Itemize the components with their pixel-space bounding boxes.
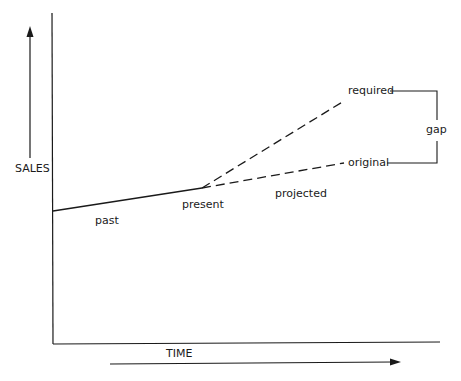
x-axis-label: TIME	[166, 348, 192, 360]
y-axis-line	[52, 13, 53, 344]
past-sales-line	[53, 188, 202, 211]
projected-label: projected	[275, 188, 327, 200]
diagram-canvas	[0, 0, 461, 381]
x-axis-line	[53, 342, 440, 344]
original-projection-line	[202, 163, 344, 188]
sales-up-arrow-icon	[27, 26, 34, 158]
y-axis-label: SALES	[15, 163, 50, 175]
gap-label: gap	[426, 124, 447, 136]
present-label: present	[182, 199, 224, 211]
time-right-arrow-icon	[110, 359, 401, 366]
original-label: original	[348, 157, 389, 169]
past-label: past	[95, 215, 119, 227]
required-label: required	[348, 85, 394, 97]
